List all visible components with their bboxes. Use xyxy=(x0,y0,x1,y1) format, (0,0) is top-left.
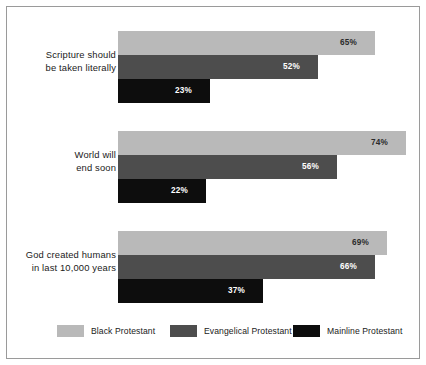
bar-value-mainline-protestant-0: 23% xyxy=(175,79,192,103)
bar-value-black-protestant-2: 69% xyxy=(352,231,369,255)
bar-mainline-protestant-0 xyxy=(118,79,210,103)
bar-evangelical-protestant-2 xyxy=(118,255,375,279)
legend-label-black-protestant: Black Protestant xyxy=(91,326,155,336)
chart-legend: Black Protestant Evangelical Protestant … xyxy=(0,322,426,346)
category-label-2-line-0: God created humans xyxy=(0,249,116,262)
bar-value-black-protestant-0: 65% xyxy=(340,31,357,55)
bar-value-evangelical-protestant-0: 52% xyxy=(283,55,300,79)
bar-mainline-protestant-1 xyxy=(118,179,206,203)
legend-item-evangelical-protestant[interactable]: Evangelical Protestant xyxy=(170,322,292,340)
bar-black-protestant-0 xyxy=(118,31,375,55)
chart-container: Scripture should be taken literally 65% … xyxy=(0,0,426,365)
category-label-0-line-1: be taken literally xyxy=(0,62,116,75)
category-label-2: God created humans in last 10,000 years xyxy=(0,249,116,274)
legend-item-black-protestant[interactable]: Black Protestant xyxy=(57,322,155,340)
category-label-0: Scripture should be taken literally xyxy=(0,49,116,74)
bar-value-evangelical-protestant-1: 56% xyxy=(302,155,319,179)
legend-label-mainline-protestant: Mainline Protestant xyxy=(327,326,402,336)
bar-black-protestant-1 xyxy=(118,131,406,155)
category-label-1-line-1: end soon xyxy=(0,162,116,175)
bar-value-mainline-protestant-2: 37% xyxy=(228,279,245,303)
category-label-1: World will end soon xyxy=(0,149,116,174)
legend-swatch-evangelical-protestant xyxy=(170,325,197,337)
category-label-1-line-0: World will xyxy=(0,149,116,162)
legend-label-evangelical-protestant: Evangelical Protestant xyxy=(204,326,292,336)
bar-value-black-protestant-1: 74% xyxy=(371,131,388,155)
legend-swatch-black-protestant xyxy=(57,325,84,337)
legend-swatch-mainline-protestant xyxy=(293,325,320,337)
bar-value-mainline-protestant-1: 22% xyxy=(171,179,188,203)
bar-value-evangelical-protestant-2: 66% xyxy=(340,255,357,279)
category-label-2-line-1: in last 10,000 years xyxy=(0,262,116,275)
category-label-0-line-0: Scripture should xyxy=(0,49,116,62)
legend-item-mainline-protestant[interactable]: Mainline Protestant xyxy=(293,322,402,340)
bar-black-protestant-2 xyxy=(118,231,387,255)
plot-area: Scripture should be taken literally 65% … xyxy=(0,0,426,312)
